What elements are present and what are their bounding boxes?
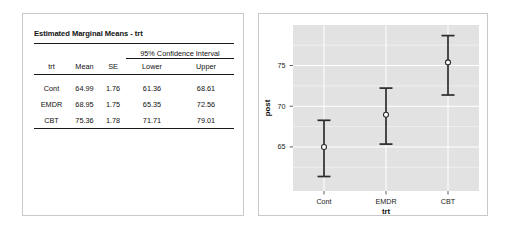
- cell-se: 1.75: [100, 96, 126, 112]
- x-axis-title: trt: [382, 207, 391, 216]
- table-title: Estimated Marginal Means - trt: [34, 29, 143, 38]
- cell-trt: Cont: [34, 80, 69, 96]
- table-row: Cont 64.99 1.76 61.36 68.61: [34, 80, 234, 96]
- cell-mean: 75.36: [69, 112, 100, 129]
- cell-upper: 72.56: [178, 96, 234, 112]
- cell-se: 1.76: [100, 80, 126, 96]
- table-group-header-row: 95% Confidence Interval: [34, 45, 234, 59]
- cell-lower: 71.71: [126, 112, 178, 129]
- cell-upper: 79.01: [178, 112, 234, 129]
- y-axis-title: post: [263, 99, 272, 116]
- group-spacer-trt: [34, 45, 69, 59]
- column-header-trt: trt: [34, 59, 69, 75]
- column-header-mean: Mean: [69, 59, 100, 75]
- cell-lower: 65.35: [126, 96, 178, 112]
- y-axis: 65 70 75 post: [263, 61, 293, 151]
- x-tick-label-cbt: CBT: [441, 197, 456, 206]
- table-row: EMDR 68.95 1.75 65.35 72.56: [34, 96, 234, 112]
- group-spacer-se: [100, 45, 126, 59]
- mean-marker-cont: [322, 145, 327, 150]
- column-header-se: SE: [100, 59, 126, 75]
- confidence-interval-group-header: 95% Confidence Interval: [126, 45, 234, 59]
- y-tick-label-75: 75: [278, 61, 286, 70]
- table-row: CBT 75.36 1.78 71.71 79.01: [34, 112, 234, 129]
- group-spacer-mean: [69, 45, 100, 59]
- estimated-marginal-means-card: Estimated Marginal Means - trt 95% Confi…: [22, 13, 244, 216]
- error-bar-plot: 65 70 75 post Cont EMDR CBT trt: [259, 14, 489, 217]
- column-header-upper: Upper: [178, 59, 234, 75]
- cell-lower: 61.36: [126, 80, 178, 96]
- cell-trt: CBT: [34, 112, 69, 129]
- cell-mean: 64.99: [69, 80, 100, 96]
- mean-marker-cbt: [446, 60, 451, 65]
- column-header-lower: Lower: [126, 59, 178, 75]
- x-axis: Cont EMDR CBT trt: [316, 191, 455, 216]
- cell-se: 1.78: [100, 112, 126, 129]
- estimated-marginal-means-table: 95% Confidence Interval trt Mean SE Lowe…: [34, 43, 234, 130]
- y-tick-label-70: 70: [278, 102, 286, 111]
- cell-mean: 68.95: [69, 96, 100, 112]
- table-bottom-rule: [34, 129, 234, 131]
- x-tick-label-emdr: EMDR: [375, 197, 396, 206]
- cell-trt: EMDR: [34, 96, 69, 112]
- y-tick-label-65: 65: [278, 142, 286, 151]
- mean-marker-emdr: [384, 112, 389, 117]
- cell-upper: 68.61: [178, 80, 234, 96]
- marginal-means-plot-card: 65 70 75 post Cont EMDR CBT trt: [258, 13, 488, 216]
- x-tick-label-cont: Cont: [316, 197, 331, 206]
- table-header-row: trt Mean SE Lower Upper: [34, 59, 234, 75]
